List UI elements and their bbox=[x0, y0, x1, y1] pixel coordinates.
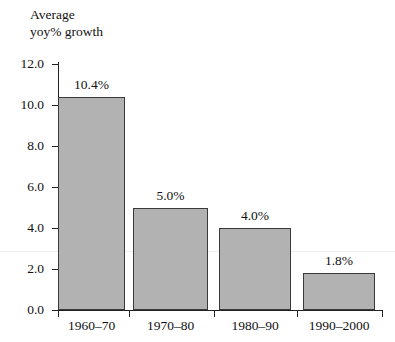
x-axis-category-label: 1990–2000 bbox=[309, 318, 370, 334]
bar bbox=[133, 208, 208, 311]
y-axis-tick-label: 10.0 bbox=[20, 97, 44, 113]
y-axis-tick-label: 4.0 bbox=[27, 220, 44, 236]
x-axis-tick bbox=[129, 311, 130, 317]
chart-figure: Average yoy% growth 0.02.04.06.08.010.01… bbox=[0, 0, 395, 342]
bar-value-label: 4.0% bbox=[241, 208, 269, 224]
y-axis-labels: 0.02.04.06.08.010.012.0 bbox=[0, 64, 44, 310]
x-axis-line bbox=[58, 310, 383, 311]
x-axis-tick bbox=[214, 311, 215, 317]
y-axis-tick-label: 2.0 bbox=[27, 261, 44, 277]
y-axis-tick bbox=[52, 64, 58, 65]
bar-value-label: 1.8% bbox=[325, 253, 353, 269]
bar-value-label: 5.0% bbox=[156, 188, 184, 204]
y-axis-tick-label: 8.0 bbox=[27, 138, 44, 154]
x-axis-tick bbox=[382, 311, 383, 317]
bar bbox=[219, 228, 291, 310]
y-axis-tick-label: 0.0 bbox=[27, 302, 44, 318]
plot-area bbox=[58, 64, 382, 310]
x-axis-tick bbox=[297, 311, 298, 317]
bar-value-label: 10.4% bbox=[74, 77, 109, 93]
x-axis-tick bbox=[58, 311, 59, 317]
x-axis-category-label: 1970–80 bbox=[147, 318, 194, 334]
x-axis-category-label: 1980–90 bbox=[231, 318, 278, 334]
chart-title: Average yoy% growth bbox=[30, 6, 103, 40]
bar bbox=[303, 273, 375, 310]
y-axis-tick-label: 6.0 bbox=[27, 179, 44, 195]
x-axis-category-label: 1960–70 bbox=[68, 318, 115, 334]
y-axis-tick-label: 12.0 bbox=[20, 56, 44, 72]
bar bbox=[58, 97, 125, 310]
